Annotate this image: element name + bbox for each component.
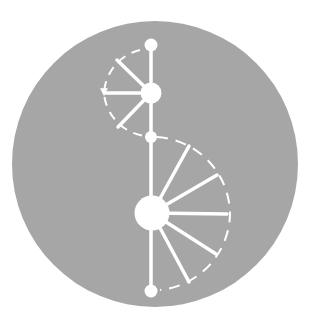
logo-badge: [0, 0, 310, 326]
upper-hub: [141, 83, 162, 104]
middle-node: [145, 131, 157, 143]
spiral-staircase-icon: [0, 0, 310, 326]
badge-circle: [12, 21, 298, 307]
lower-hub: [135, 196, 170, 231]
bottom-node: [145, 285, 158, 298]
top-node: [145, 39, 158, 52]
